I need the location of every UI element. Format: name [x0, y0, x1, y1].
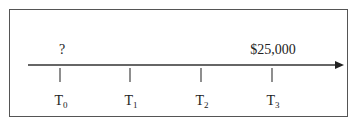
value-t0: ? — [59, 43, 65, 57]
label-t1: T1 — [124, 94, 137, 112]
arrow-head-icon — [335, 61, 344, 69]
label-t3: T3 — [266, 94, 279, 112]
value-t3: $25,000 — [250, 43, 296, 57]
label-t0: T0 — [54, 94, 67, 112]
timeline-svg — [0, 0, 356, 123]
label-t2: T2 — [195, 94, 208, 112]
